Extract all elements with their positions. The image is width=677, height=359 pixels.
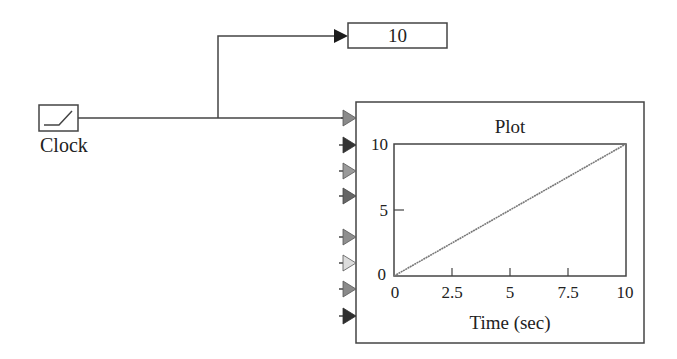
x-tick-label-10: 10 <box>617 284 634 301</box>
input-port-8 <box>339 308 356 324</box>
input-port-1 <box>341 110 356 126</box>
x-tick-label-2.5: 2.5 <box>441 284 462 301</box>
x-tick-label-5: 5 <box>506 284 515 301</box>
display-value: 10 <box>348 26 447 45</box>
x-tick-label-7.5: 7.5 <box>557 284 578 301</box>
port-triangle-icon <box>343 163 356 179</box>
port-triangle-icon <box>343 255 356 271</box>
y-tick-label-10: 10 <box>364 136 388 153</box>
input-port-3 <box>339 163 356 179</box>
plot-axes <box>394 144 626 276</box>
x-tick-label-0: 0 <box>391 284 400 301</box>
signal-line-branch-to-display <box>218 36 336 118</box>
input-port-6 <box>339 255 356 271</box>
display-input-arrow-icon <box>334 29 348 43</box>
port-triangle-icon <box>343 110 356 126</box>
clock-block[interactable] <box>39 105 78 131</box>
plot-title: Plot <box>394 117 626 136</box>
port-triangle-icon <box>343 229 356 245</box>
input-port-5 <box>339 229 356 245</box>
scope-input-ports <box>339 110 356 324</box>
x-axis-label: Time (sec) <box>394 313 626 332</box>
input-port-4 <box>339 188 356 204</box>
y-tick-label-0: 0 <box>362 266 386 283</box>
signal-lines <box>78 36 344 118</box>
port-triangle-icon <box>343 137 356 153</box>
input-port-7 <box>339 281 356 297</box>
port-triangle-icon <box>343 308 356 324</box>
port-triangle-icon <box>343 188 356 204</box>
port-triangle-icon <box>343 281 356 297</box>
diagram-canvas <box>0 0 677 359</box>
clock-label: Clock <box>40 135 88 155</box>
input-port-2 <box>339 137 356 153</box>
y-tick-label-5: 5 <box>364 202 388 219</box>
